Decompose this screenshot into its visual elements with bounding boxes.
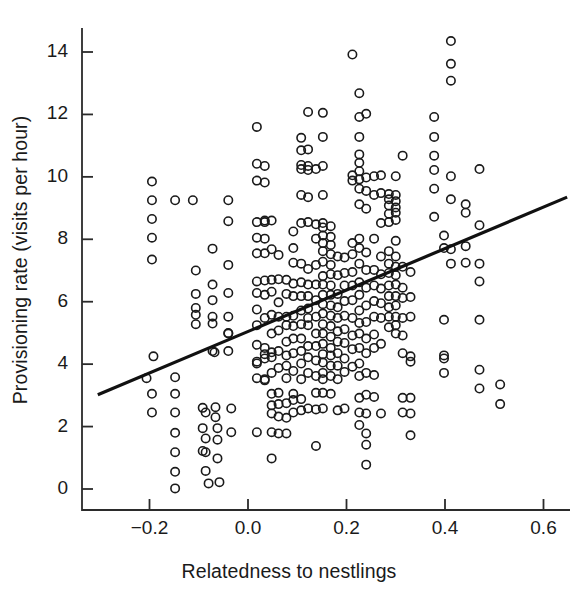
scatter-point xyxy=(312,442,320,450)
scatter-point xyxy=(227,404,235,412)
scatter-point xyxy=(319,272,327,280)
scatter-point xyxy=(227,428,235,436)
scatter-point xyxy=(447,259,455,267)
scatter-point xyxy=(362,248,370,256)
scatter-point xyxy=(201,467,209,475)
scatter-point xyxy=(406,268,414,276)
scatter-point xyxy=(362,460,370,468)
scatter-point xyxy=(261,234,269,242)
scatter-point xyxy=(406,313,414,321)
axis-spines xyxy=(82,28,570,510)
scatter-point xyxy=(261,178,269,186)
scatter-point xyxy=(289,367,297,375)
scatter-point xyxy=(461,259,469,267)
scatter-point xyxy=(440,316,448,324)
data-point-group xyxy=(142,37,504,493)
scatter-point xyxy=(171,196,179,204)
scatter-point xyxy=(496,380,504,388)
scatter-point xyxy=(362,334,370,342)
scatter-point xyxy=(171,373,179,381)
scatter-point xyxy=(430,213,438,221)
scatter-point xyxy=(253,277,261,285)
scatter-point xyxy=(475,384,483,392)
scatter-point xyxy=(253,176,261,184)
scatter-point xyxy=(208,280,216,288)
scatter-point xyxy=(171,468,179,476)
scatter-point xyxy=(289,279,297,287)
scatter-point xyxy=(447,37,455,45)
scatter-point xyxy=(377,409,385,417)
scatter-point xyxy=(398,283,406,291)
scatter-point xyxy=(392,172,400,180)
y-axis-title-container: Provisioning rate (visits per hour) xyxy=(0,0,40,520)
scatter-point xyxy=(198,424,206,432)
scatter-point xyxy=(201,434,209,442)
scatter-point xyxy=(362,349,370,357)
scatter-point xyxy=(211,413,219,421)
scatter-point xyxy=(430,185,438,193)
scatter-point xyxy=(304,108,312,116)
scatter-point xyxy=(340,368,348,376)
scatter-point xyxy=(398,151,406,159)
scatter-point xyxy=(377,219,385,227)
scatter-point xyxy=(475,165,483,173)
scatter-point xyxy=(319,109,327,117)
scatter-point xyxy=(204,479,212,487)
scatter-point xyxy=(475,277,483,285)
scatter-point xyxy=(430,133,438,141)
scatter-point xyxy=(253,305,261,313)
scatter-point xyxy=(430,151,438,159)
scatter-point xyxy=(475,366,483,374)
plot-canvas xyxy=(0,0,578,603)
scatter-point xyxy=(355,159,363,167)
scatter-point xyxy=(282,374,290,382)
scatter-point xyxy=(267,454,275,462)
scatter-point xyxy=(430,113,438,121)
scatter-point xyxy=(327,241,335,249)
scatter-point xyxy=(370,393,378,401)
scatter-point xyxy=(267,288,275,296)
scatter-point xyxy=(461,200,469,208)
scatter-point xyxy=(224,313,232,321)
y-axis-title: Provisioning rate (visits per hour) xyxy=(9,116,32,405)
scatter-point xyxy=(355,133,363,141)
scatter-point xyxy=(406,357,414,365)
scatter-point xyxy=(148,408,156,416)
scatter-point xyxy=(253,123,261,131)
scatter-point xyxy=(362,301,370,309)
scatter-point xyxy=(224,217,232,225)
scatter-point xyxy=(406,409,414,417)
scatter-point xyxy=(304,265,312,273)
scatter-point xyxy=(253,289,261,297)
scatter-point xyxy=(213,424,221,432)
scatter-point xyxy=(192,290,200,298)
scatter-point xyxy=(333,375,341,383)
scatter-point xyxy=(327,390,335,398)
scatter-point xyxy=(319,133,327,141)
scatter-point xyxy=(148,255,156,263)
scatter-point xyxy=(224,289,232,297)
scatter-point xyxy=(440,231,448,239)
scatter-point xyxy=(171,390,179,398)
scatter-point xyxy=(475,221,483,229)
scatter-point xyxy=(348,250,356,258)
x-tick-label: 0.2 xyxy=(317,517,377,539)
x-axis-ticks xyxy=(150,499,544,510)
scatter-point xyxy=(447,77,455,85)
scatter-point xyxy=(149,352,157,360)
scatter-point xyxy=(392,237,400,245)
x-tick-label: 0.4 xyxy=(415,517,475,539)
scatter-point xyxy=(440,369,448,377)
x-tick-label: 0.0 xyxy=(218,517,278,539)
scatter-point xyxy=(211,403,219,411)
scatter-point xyxy=(261,162,269,170)
scatter-point xyxy=(355,421,363,429)
scatter-point xyxy=(362,440,370,448)
scatter-plot-figure: 02468101214 −0.20.00.20.40.6 Provisionin… xyxy=(0,0,578,603)
scatter-point xyxy=(192,266,200,274)
scatter-point xyxy=(274,298,282,306)
scatter-point xyxy=(447,172,455,180)
scatter-point xyxy=(319,350,327,358)
scatter-point xyxy=(377,340,385,348)
scatter-point xyxy=(475,259,483,267)
